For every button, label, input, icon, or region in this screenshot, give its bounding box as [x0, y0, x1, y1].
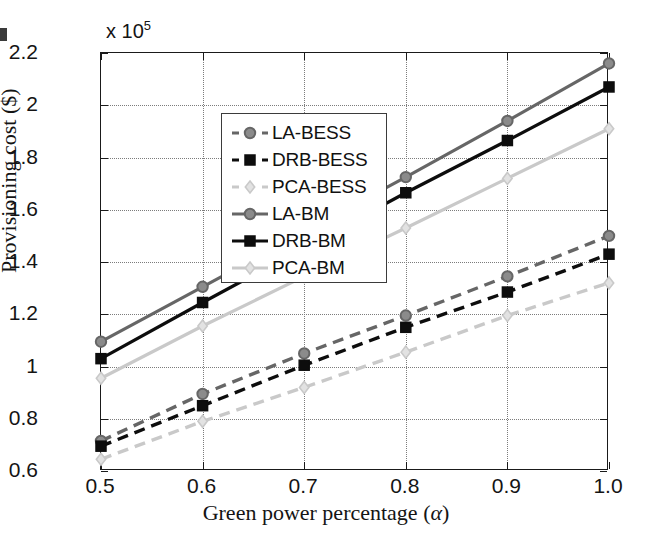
y-axis-tick-label: 1.8 — [0, 145, 38, 169]
legend-label: LA-BM — [272, 203, 329, 225]
data-point-marker — [245, 262, 254, 274]
legend-item-pca-bm[interactable]: PCA-BM — [230, 254, 380, 281]
y-axis-tick-label: 1.2 — [0, 301, 38, 325]
y-axis-tick — [101, 471, 108, 472]
legend-label: DRB-BESS — [272, 149, 368, 171]
legend-label: PCA-BM — [272, 257, 345, 279]
legend-swatch-icon — [230, 150, 270, 170]
data-point-marker — [96, 372, 105, 384]
x-axis-tick-label: 1.0 — [593, 474, 622, 498]
data-point-marker — [503, 310, 512, 322]
x-axis-tick-label: 0.7 — [289, 474, 318, 498]
legend-item-la-bm[interactable]: LA-BM — [230, 200, 380, 227]
y-axis-exponent: x 105 — [106, 18, 151, 43]
data-point-marker — [96, 441, 106, 451]
legend-swatch-icon — [230, 177, 270, 197]
legend-label: DRB-BM — [272, 230, 346, 252]
data-point-marker — [96, 354, 106, 364]
data-point-marker — [401, 346, 410, 358]
y-axis-exponent-prefix: x 10 — [106, 20, 144, 42]
data-point-marker — [604, 82, 614, 92]
x-axis-tick-label: 0.6 — [187, 474, 216, 498]
data-point-marker — [604, 58, 614, 68]
legend-item-la-bess[interactable]: LA-BESS — [230, 119, 380, 146]
legend-box: LA-BESSDRB-BESSPCA-BESSLA-BMDRB-BMPCA-BM — [221, 113, 387, 283]
y-axis-tick-label: 2 — [0, 92, 38, 116]
data-point-marker — [96, 336, 106, 346]
data-point-marker — [604, 231, 614, 241]
legend-label: LA-BESS — [272, 122, 351, 144]
data-point-marker — [245, 208, 255, 218]
y-axis-tick-label: 0.8 — [0, 406, 38, 430]
x-axis-tick-label: 0.8 — [390, 474, 419, 498]
legend-swatch-icon — [230, 231, 270, 251]
chart-figure: x 105 Provisioning cost ($) Green power … — [0, 0, 652, 547]
legend-label: PCA-BESS — [272, 176, 367, 198]
data-point-marker — [502, 287, 512, 297]
legend-swatch-icon — [230, 204, 270, 224]
legend-item-drb-bess[interactable]: DRB-BESS — [230, 146, 380, 173]
x-axis-tick — [609, 462, 610, 469]
data-point-marker — [604, 277, 613, 289]
data-point-marker — [245, 236, 255, 246]
data-point-marker — [604, 249, 614, 259]
series-line — [101, 283, 609, 459]
data-point-marker — [245, 181, 254, 193]
x-axis-title-alpha: α — [430, 500, 442, 525]
data-point-marker — [300, 381, 309, 393]
data-point-marker — [198, 297, 208, 307]
x-axis-title-suffix: ) — [442, 500, 449, 525]
y-axis-tick-label: 2.2 — [0, 40, 38, 64]
x-axis-title: Green power percentage (α) — [203, 500, 450, 526]
x-axis-tick-label: 0.5 — [85, 474, 114, 498]
y-axis-tick-label: 1.6 — [0, 197, 38, 221]
data-point-marker — [198, 415, 207, 427]
data-point-marker — [503, 172, 512, 184]
data-point-marker — [401, 188, 411, 198]
y-axis-tick-label: 0.6 — [0, 458, 38, 482]
data-point-marker — [245, 127, 255, 137]
data-point-marker — [198, 320, 207, 332]
data-point-marker — [299, 360, 309, 370]
plot-area: LA-BESSDRB-BESSPCA-BESSLA-BMDRB-BMPCA-BM — [100, 52, 608, 470]
data-point-marker — [197, 282, 207, 292]
x-axis-title-prefix: Green power percentage ( — [203, 500, 431, 525]
x-axis-tick-label: 0.9 — [492, 474, 521, 498]
data-point-marker — [502, 271, 512, 281]
data-point-marker — [401, 322, 411, 332]
data-point-marker — [197, 389, 207, 399]
legend-item-drb-bm[interactable]: DRB-BM — [230, 227, 380, 254]
legend-swatch-icon — [230, 258, 270, 278]
y-axis-exponent-sup: 5 — [144, 18, 151, 33]
data-point-marker — [502, 116, 512, 126]
data-point-marker — [299, 348, 309, 358]
data-point-marker — [245, 155, 255, 165]
data-point-marker — [401, 222, 410, 234]
data-point-marker — [604, 123, 613, 135]
data-point-marker — [502, 136, 512, 146]
series-pca-bess — [96, 277, 613, 465]
y-axis-tick-label: 1 — [0, 354, 38, 378]
data-point-marker — [401, 172, 411, 182]
data-point-marker — [198, 401, 208, 411]
data-point-marker — [401, 310, 411, 320]
y-axis-tick-label: 1.4 — [0, 249, 38, 273]
data-point-marker — [96, 453, 105, 465]
legend-swatch-icon — [230, 123, 270, 143]
y-axis-tick-right — [600, 471, 607, 472]
legend-item-pca-bess[interactable]: PCA-BESS — [230, 173, 380, 200]
